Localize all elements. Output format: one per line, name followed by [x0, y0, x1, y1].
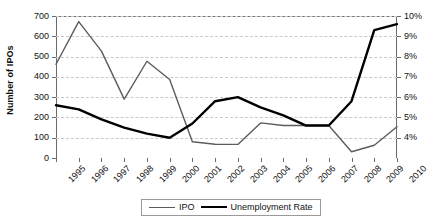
x-tick — [238, 158, 239, 162]
x-tick-label: 2004 — [271, 164, 292, 185]
legend-item-ipo: IPO — [149, 202, 195, 212]
line-series-ipo — [56, 22, 397, 152]
x-tick — [329, 158, 330, 162]
x-tick-label: 2008 — [362, 164, 383, 185]
x-tick-label: 1995 — [67, 164, 88, 185]
legend-swatch-ipo — [149, 207, 175, 208]
right-tick-label: 10% — [404, 12, 422, 21]
line-series-unemployment-rate — [56, 24, 397, 138]
x-tick — [124, 158, 125, 162]
x-tick-label: 2005 — [294, 164, 315, 185]
series-lines — [56, 16, 397, 158]
right-tick — [397, 77, 401, 78]
x-tick-label: 2001 — [203, 164, 224, 185]
legend-item-unemployment-rate: Unemployment Rate — [201, 202, 313, 212]
left-tick-label: 0 — [44, 154, 49, 163]
right-tick-label: 9% — [404, 32, 417, 41]
x-tick-label: 1996 — [90, 164, 111, 185]
x-tick-label: 2000 — [181, 164, 202, 185]
right-tick — [397, 16, 401, 17]
right-tick — [397, 117, 401, 118]
left-tick-label: 500 — [34, 52, 49, 61]
plot-area: 0100200300400500600700 4%5%6%7%8%9%10% 1… — [56, 16, 397, 158]
x-tick — [397, 158, 398, 162]
right-tick — [397, 97, 401, 98]
x-tick-label: 1999 — [158, 164, 179, 185]
left-tick-label: 300 — [34, 93, 49, 102]
right-tick-label: 6% — [404, 93, 417, 102]
x-tick — [215, 158, 216, 162]
left-tick-label: 200 — [34, 113, 49, 122]
x-tick-label: 2007 — [340, 164, 361, 185]
x-tick — [56, 158, 57, 162]
chart-legend: IPO Unemployment Rate — [141, 199, 321, 216]
x-tick — [306, 158, 307, 162]
x-tick — [374, 158, 375, 162]
legend-label-ipo: IPO — [179, 202, 195, 212]
legend-label-unemployment-rate: Unemployment Rate — [231, 202, 313, 212]
y-axis-title-left-text: Number of IPOs — [5, 45, 15, 114]
x-tick — [261, 158, 262, 162]
right-tick-label: 5% — [404, 113, 417, 122]
x-tick-label: 1997 — [112, 164, 133, 185]
x-tick — [170, 158, 171, 162]
right-tick — [397, 57, 401, 58]
x-tick-label: 1998 — [135, 164, 156, 185]
x-tick — [101, 158, 102, 162]
right-tick — [397, 36, 401, 37]
x-tick — [283, 158, 284, 162]
x-tick — [352, 158, 353, 162]
x-tick — [147, 158, 148, 162]
x-tick-label: 2010 — [408, 164, 429, 185]
right-tick-label: 4% — [404, 133, 417, 142]
x-tick — [192, 158, 193, 162]
left-tick-label: 100 — [34, 133, 49, 142]
x-tick-label: 2002 — [226, 164, 247, 185]
x-tick — [79, 158, 80, 162]
right-tick-label: 7% — [404, 72, 417, 81]
y-axis-title-left: Number of IPOs — [2, 0, 18, 160]
left-tick-label: 400 — [34, 72, 49, 81]
x-tick-label: 2009 — [385, 164, 406, 185]
right-tick — [397, 138, 401, 139]
x-tick-label: 2003 — [249, 164, 270, 185]
left-tick-label: 700 — [34, 12, 49, 21]
legend-swatch-unemployment-rate — [201, 206, 227, 208]
left-tick-label: 600 — [34, 32, 49, 41]
right-tick-label: 8% — [404, 52, 417, 61]
x-tick-label: 2006 — [317, 164, 338, 185]
chart-figure: Number of IPOs 0100200300400500600700 4%… — [0, 0, 440, 222]
